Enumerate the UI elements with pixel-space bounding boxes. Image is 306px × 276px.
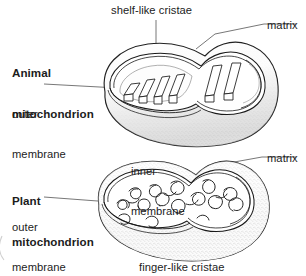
label-inner-membrane-line2: membrane — [131, 205, 185, 218]
label-outer-membrane-plant: outer membrane — [12, 194, 66, 276]
label-inner-membrane: inner membrane — [131, 138, 185, 245]
label-matrix-animal: matrix — [267, 19, 298, 32]
scan-edge-artifact — [0, 236, 4, 260]
mitochondria-diagram: shelf-like cristae matrix Animal mitocho… — [0, 0, 306, 276]
label-animal-mitochondrion-line1: Animal — [12, 66, 94, 80]
label-shelf-like-cristae: shelf-like cristae — [111, 4, 192, 17]
label-inner-membrane-line1: inner — [131, 165, 185, 178]
label-finger-like-cristae: finger-like cristae — [139, 261, 225, 274]
animal-mitochondrion-drawing — [104, 42, 278, 147]
label-outer-membrane-plant-line1: outer — [12, 221, 66, 234]
label-outer-membrane-animal-line1: outer — [12, 108, 66, 121]
label-outer-membrane-animal-line2: membrane — [12, 148, 66, 161]
label-matrix-plant: matrix — [267, 152, 298, 165]
label-outer-membrane-plant-line2: membrane — [12, 261, 66, 274]
